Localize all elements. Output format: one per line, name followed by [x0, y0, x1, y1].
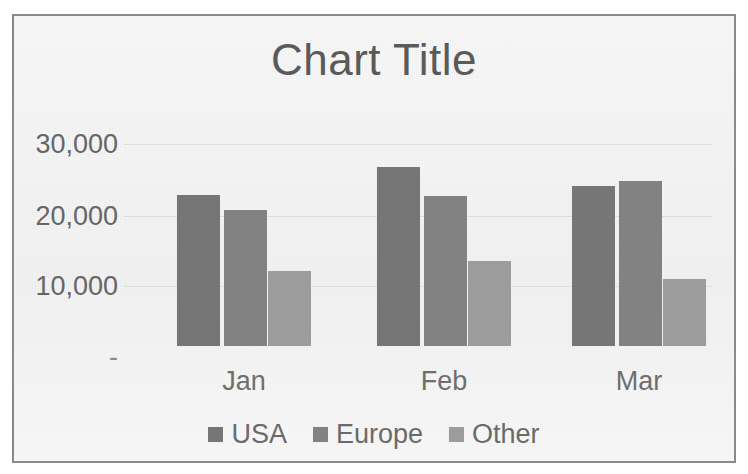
chart-title[interactable]: Chart Title — [14, 38, 734, 82]
bar-feb-usa[interactable] — [377, 167, 420, 346]
legend-label-europe: Europe — [336, 421, 423, 448]
legend-swatch-icon-europe — [313, 427, 328, 442]
y-tick-label-20000: 20,000 — [35, 203, 118, 230]
legend-label-usa: USA — [231, 421, 287, 448]
bar-mar-usa[interactable] — [572, 186, 615, 346]
bar-mar-europe[interactable] — [619, 181, 662, 346]
bar-group-feb — [377, 116, 511, 346]
legend-swatch-icon-other — [449, 427, 464, 442]
legend-item-europe[interactable]: Europe — [313, 421, 423, 448]
category-label-feb: Feb — [421, 368, 468, 395]
legend-swatch-icon-usa — [208, 427, 223, 442]
legend-item-other[interactable]: Other — [449, 421, 540, 448]
bar-jan-usa[interactable] — [177, 195, 220, 346]
y-tick-label-30000: 30,000 — [35, 131, 118, 158]
bars-layer — [124, 116, 712, 346]
y-axis[interactable]: 30,000 20,000 10,000 - — [26, 116, 118, 346]
category-label-jan: Jan — [222, 368, 266, 395]
bar-group-jan — [177, 116, 311, 346]
chart-legend[interactable]: USA Europe Other — [14, 421, 734, 448]
y-tick-label-zero: - — [109, 344, 118, 371]
bar-feb-other[interactable] — [468, 261, 511, 346]
bar-group-mar — [572, 116, 706, 346]
y-tick-label-10000: 10,000 — [35, 273, 118, 300]
category-axis[interactable]: Jan Feb Mar — [124, 368, 712, 404]
legend-item-usa[interactable]: USA — [208, 421, 287, 448]
bar-mar-other[interactable] — [663, 279, 706, 346]
chart-frame[interactable]: Chart Title 30,000 20,000 10,000 - — [12, 14, 736, 463]
bar-feb-europe[interactable] — [424, 196, 467, 346]
bar-jan-other[interactable] — [268, 271, 311, 346]
category-label-mar: Mar — [616, 368, 663, 395]
legend-label-other: Other — [472, 421, 540, 448]
bar-jan-europe[interactable] — [224, 210, 267, 346]
